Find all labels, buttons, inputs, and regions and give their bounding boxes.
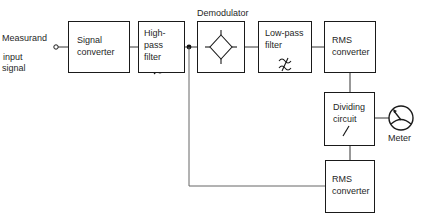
input-terminal bbox=[54, 45, 58, 49]
dividing-circuit-block: Dividing circuit bbox=[324, 92, 375, 146]
signal-converter-block: Signal converter bbox=[68, 21, 130, 73]
rms-converter-top-block: RMS converter bbox=[324, 21, 376, 73]
signal-label: signal bbox=[2, 63, 26, 74]
dividing-line1: Dividing bbox=[333, 101, 365, 113]
input-label: input bbox=[3, 52, 23, 63]
high-pass-line2: filter bbox=[144, 51, 184, 63]
signal-converter-line2: converter bbox=[77, 46, 115, 58]
low-pass-filter-block: Low-pass filter bbox=[258, 21, 312, 73]
low-pass-line2: filter bbox=[265, 39, 304, 51]
high-pass-filter-block: High-pass filter bbox=[138, 21, 185, 73]
high-pass-line1: High-pass bbox=[144, 27, 184, 51]
measurand-label: Measurand bbox=[2, 33, 47, 44]
demodulator-block bbox=[197, 21, 245, 73]
rms-bottom-line1: RMS bbox=[332, 173, 370, 185]
signal-converter-line1: Signal bbox=[77, 34, 115, 46]
meter-label: Meter bbox=[388, 133, 411, 144]
rms-converter-bottom-block: RMS converter bbox=[325, 160, 375, 213]
rms-top-line2: converter bbox=[332, 46, 370, 58]
rms-top-line1: RMS bbox=[332, 34, 370, 46]
demodulator-label: Demodulator bbox=[197, 8, 249, 19]
meter-icon bbox=[389, 106, 413, 130]
rms-bottom-line2: converter bbox=[332, 185, 370, 197]
dividing-line2: circuit bbox=[333, 113, 365, 125]
low-pass-line1: Low-pass bbox=[265, 27, 304, 39]
